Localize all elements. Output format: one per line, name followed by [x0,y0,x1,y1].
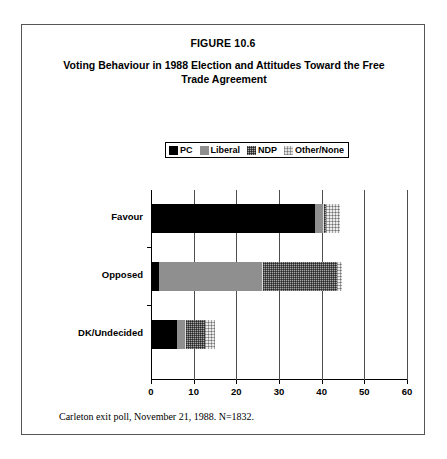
y-axis-tick [147,247,151,248]
x-axis-tick [236,380,237,384]
x-axis-tick-label: 10 [179,386,209,397]
bar-row: DK/Undecided [151,320,407,349]
legend-item-ndp: NDP [247,145,277,155]
bar-segment-liberal [177,320,186,349]
bar-row: Favour [151,204,407,233]
other-none-swatch-icon [284,146,293,155]
figure-title: Voting Behaviour in 1988 Election and At… [50,58,398,86]
ndp-swatch-icon [247,146,256,155]
pc-swatch-icon [169,146,178,155]
category-label: DK/Undecided [78,327,143,338]
y-axis-tick [147,305,151,306]
bar-segment-other-none [205,320,215,349]
bar-row: Opposed [151,262,407,291]
bar-segment-other-none [326,204,340,233]
plot-area: 0102030405060 FavourOpposedDK/Undecided [151,190,407,380]
x-axis-tick-label: 0 [136,386,166,397]
legend-label-liberal: Liberal [211,145,241,155]
legend-item-liberal: Liberal [200,145,241,155]
legend-label-other-none: Other/None [295,145,344,155]
x-axis-tick-label: 60 [392,386,422,397]
bar-segment-other-none [337,262,342,291]
bar-segment-liberal [159,262,262,291]
x-axis-tick [194,380,195,384]
figure-frame: FIGURE 10.6 Voting Behaviour in 1988 Ele… [21,24,425,435]
bar-segment-pc [151,204,315,233]
x-axis-tick-label: 30 [264,386,294,397]
legend-label-ndp: NDP [258,145,277,155]
bar-segment-pc [151,262,159,291]
legend-label-pc: PC [180,145,193,155]
x-axis-tick [364,380,365,384]
bar-segment-pc [151,320,177,349]
chart-legend: PC Liberal NDP Other/None [165,142,349,158]
x-axis-tick [279,380,280,384]
gridline [407,190,408,380]
bar-segment-ndp [262,262,337,291]
legend-item-pc: PC [169,145,193,155]
x-axis-tick [151,380,152,384]
x-axis-tick-label: 50 [349,386,379,397]
x-axis-tick [407,380,408,384]
figure-footnote: Carleton exit poll, November 21, 1988. N… [59,411,254,422]
legend-item-other-none: Other/None [284,145,344,155]
x-axis-tick [322,380,323,384]
category-label: Opposed [102,269,143,280]
x-axis-tick-label: 20 [221,386,251,397]
x-axis-tick-label: 40 [307,386,337,397]
bar-segment-liberal [315,204,322,233]
liberal-swatch-icon [200,146,209,155]
figure-number: FIGURE 10.6 [22,37,424,49]
category-label: Favour [111,211,143,222]
bar-segment-ndp [185,320,205,349]
